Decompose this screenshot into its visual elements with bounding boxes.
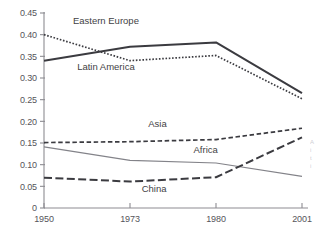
x-tick-label: 1950: [34, 214, 54, 224]
chart-canvas: 00.050.100.150.200.250.300.350.400.45 19…: [0, 0, 322, 244]
series-label-china: China: [142, 183, 168, 194]
x-axis-ticks: 1950197319802001: [34, 203, 312, 224]
line-chart: 00.050.100.150.200.250.300.350.400.45 19…: [0, 0, 322, 244]
margin-line-3: t: [310, 154, 322, 162]
y-tick-label: 0.10: [20, 160, 37, 170]
series-labels: Eastern EuropeLatin AmericaAsiaAfricaChi…: [73, 15, 219, 195]
series-line-asia: [44, 128, 302, 142]
margin-line-4: i: [310, 162, 322, 170]
series-line-africa: [44, 147, 302, 176]
series-label-eastern-europe: Eastern Europe: [73, 15, 139, 26]
y-axis-ticks: 00.050.100.150.200.250.300.350.400.45: [20, 8, 45, 213]
y-tick-label: 0.45: [20, 8, 37, 18]
margin-line-2: i: [310, 146, 322, 154]
series-label-africa: Africa: [194, 144, 219, 155]
x-tick-label: 2001: [292, 214, 312, 224]
y-tick-label: 0.05: [20, 182, 37, 192]
x-tick-label: 1973: [120, 214, 140, 224]
series-line-china: [44, 137, 302, 181]
y-tick-label: 0.30: [20, 73, 37, 83]
y-tick-label: 0: [32, 203, 37, 213]
series-label-asia: Asia: [148, 118, 167, 129]
cut-off-margin-text: A i t i: [310, 138, 322, 170]
margin-line-1: A: [310, 138, 322, 146]
y-tick-label: 0.35: [20, 52, 37, 62]
series-label-latin-america: Latin America: [77, 61, 135, 72]
x-tick-label: 1980: [206, 214, 226, 224]
series-lines: [44, 35, 302, 182]
y-tick-label: 0.15: [20, 138, 37, 148]
y-tick-label: 0.25: [20, 95, 37, 105]
y-tick-label: 0.20: [20, 117, 37, 127]
y-tick-label: 0.40: [20, 30, 37, 40]
